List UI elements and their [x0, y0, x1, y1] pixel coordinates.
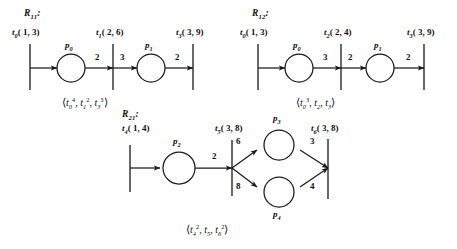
arc-weight-t2-p1: 2 [348, 53, 353, 62]
firing-sequence-r21: ⟨t42, t5, t62⟩ [186, 224, 228, 238]
seq-term-sup: 2 [196, 223, 199, 230]
net-title-colon: : [266, 8, 269, 18]
arc-weight-p1-t3: 2 [175, 53, 180, 62]
arc-weight-p0-t2: 3 [323, 53, 328, 62]
arc-weight-t5-p4: 8 [236, 182, 241, 191]
arc-weight-p4-t6: 4 [310, 182, 315, 191]
transition-label-t3: t3( 3, 9) [407, 28, 434, 39]
p-sub: 2 [178, 141, 181, 148]
p-sub: 1 [379, 45, 382, 52]
seq-close: ⟩ [224, 223, 228, 235]
transition-label-t4: t4( 1, 4) [122, 124, 149, 135]
firing-sequence-r12: ⟨t03, t2, t3⟩ [296, 97, 335, 111]
transition-label-t0: t0( 1, 3) [240, 28, 267, 39]
net-title-r12: R12: [252, 9, 269, 20]
firing-sequence-r11: ⟨t04, t12, t33⟩ [62, 97, 108, 111]
seq-term-sub: 0 [69, 103, 72, 110]
place-p4 [264, 177, 294, 207]
p-sub: 4 [278, 214, 281, 221]
p-sub: 3 [278, 118, 281, 125]
seq-term-sub: 3 [97, 103, 100, 110]
seq-term-sup: 3 [306, 96, 309, 103]
place-label-p1: p1 [145, 41, 153, 52]
seq-term-sub: 5 [207, 230, 210, 237]
arc-weight-p1-t3: 2 [406, 53, 411, 62]
place-p1 [366, 54, 394, 82]
place-label-p1: p1 [374, 41, 382, 52]
t-interval: ( 1, 3) [246, 27, 268, 37]
t-interval: ( 1, 3) [18, 27, 40, 37]
arc-weight-t5-p3: 6 [236, 137, 241, 146]
transition-label-t1: t1( 2, 6) [96, 28, 123, 39]
arc-weight-p2-t5: 2 [212, 152, 217, 161]
net-title-colon: : [37, 8, 40, 18]
place-label-p0: p0 [65, 41, 73, 52]
net-title-sub: 21 [129, 114, 136, 121]
place-p0 [57, 54, 85, 82]
place-p0 [285, 54, 313, 82]
arc-weight-p3-t6: 3 [310, 137, 315, 146]
place-label-p0: p0 [293, 41, 301, 52]
transition-label-t5: t5( 3, 8) [215, 124, 242, 135]
net-title-sub: 12 [259, 13, 266, 20]
net-r12-graphics [258, 44, 424, 90]
transition-label-t3: t3( 3, 9) [176, 28, 203, 39]
transition-label-t0: t0( 1, 3) [12, 28, 39, 39]
place-label-p3: p3 [273, 114, 281, 125]
seq-close: ⟩ [104, 96, 108, 108]
t-interval: ( 2, 6) [102, 27, 124, 37]
p-sub: 0 [298, 45, 301, 52]
t-interval: ( 1, 4) [128, 123, 150, 133]
place-p1 [137, 54, 165, 82]
arc-weight-t1-p1: 3 [120, 53, 125, 62]
t-interval: ( 2, 4) [330, 27, 352, 37]
p-sub: 0 [70, 45, 73, 52]
t-interval: ( 3, 8) [317, 123, 339, 133]
seq-term-sub: 4 [193, 230, 196, 237]
net-r11-graphics [30, 44, 193, 90]
arc-t5-to-p3 [232, 150, 257, 168]
seq-term-sub: 1 [83, 103, 86, 110]
seq-term-sub: 6 [218, 230, 221, 237]
arc-weight-p0-t1: 2 [95, 53, 100, 62]
seq-term-sub: 0 [303, 103, 306, 110]
place-label-p2: p2 [173, 137, 181, 148]
net-title-r11: R11: [24, 9, 41, 20]
arc-p3-to-t6 [300, 150, 328, 168]
place-label-p4: p4 [273, 210, 281, 221]
net-title-colon: : [136, 109, 139, 119]
net-title-r21: R21: [122, 110, 139, 121]
p-sub: 1 [150, 45, 153, 52]
t-interval: ( 3, 8) [221, 123, 243, 133]
seq-term-sup: 2 [86, 96, 89, 103]
place-p3 [264, 130, 294, 160]
seq-close: ⟩ [331, 96, 335, 108]
seq-term-sup: 4 [72, 96, 75, 103]
t-interval: ( 3, 9) [413, 27, 435, 37]
figure-canvas: R11: t0( 1, 3) t1( 2, 6) t3( 3, 9) p0 p1… [0, 0, 457, 249]
place-p2 [163, 152, 195, 184]
transition-label-t6: t6( 3, 8) [311, 124, 338, 135]
seq-term-sub: 2 [317, 103, 320, 110]
transition-label-t2: t2( 2, 4) [324, 28, 351, 39]
t-interval: ( 3, 9) [182, 27, 204, 37]
net-r21-graphics [130, 130, 328, 207]
